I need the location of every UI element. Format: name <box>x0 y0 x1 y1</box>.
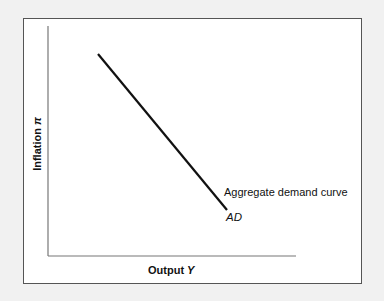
curve-name-label: Aggregate demand curve <box>224 186 348 198</box>
x-axis-label: Output Y <box>148 264 194 276</box>
chart-plot <box>0 0 384 301</box>
aggregate-demand-curve <box>98 54 227 210</box>
y-axis-label: Inflation π <box>31 117 43 171</box>
curve-short-label: AD <box>226 211 242 223</box>
